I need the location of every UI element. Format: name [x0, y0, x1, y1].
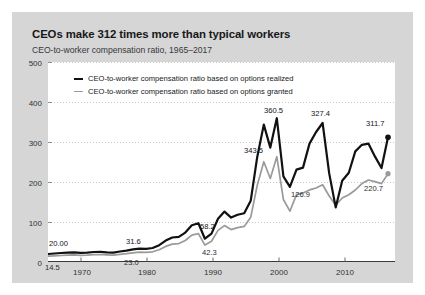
legend-label-granted: CEO-to-worker compensation ratio based o… — [88, 87, 293, 96]
y-tick-200: 200 — [16, 179, 42, 188]
legend-label-realized: CEO-to-worker compensation ratio based o… — [88, 74, 294, 83]
y-tick-400: 400 — [16, 99, 42, 108]
page-title: CEOs make 312 times more than typical wo… — [32, 28, 290, 40]
y-tick-500: 500 — [16, 59, 42, 68]
x-tick-2010: 2010 — [328, 268, 362, 277]
y-tick-0: 0 — [16, 259, 42, 268]
y-axis-ticks — [48, 63, 52, 223]
y-tick-100: 100 — [16, 219, 42, 228]
chart-subtitle: CEO-to-worker compensation ratio, 1965–2… — [32, 45, 212, 55]
label-2017-granted: 220.7 — [364, 184, 383, 193]
legend-item-granted: CEO-to-worker compensation ratio based o… — [74, 87, 293, 96]
label-1978-realized: 31.6 — [126, 237, 141, 246]
label-2002-granted: 126.9 — [291, 190, 310, 199]
label-2000-peak: 360.5 — [264, 106, 283, 115]
label-1998-realized: 343.5 — [244, 146, 263, 155]
y-tick-300: 300 — [16, 139, 42, 148]
series-line-realized — [48, 118, 388, 254]
legend-swatch-realized — [74, 78, 83, 80]
label-1989-realized: 58.2 — [200, 222, 215, 231]
endpoint-granted — [385, 171, 390, 176]
x-tick-1980: 1980 — [130, 268, 164, 277]
plot-panel: CEO-to-worker compensation ratio based o… — [48, 62, 395, 262]
x-tick-1990: 1990 — [196, 268, 230, 277]
endpoint-realized — [385, 135, 391, 141]
label-1989-granted: 42.3 — [202, 248, 217, 257]
label-1978-granted: 23.0 — [124, 258, 139, 267]
x-tick-2000: 2000 — [262, 268, 296, 277]
legend-item-realized: CEO-to-worker compensation ratio based o… — [74, 74, 294, 83]
label-1965-realized: 20.00 — [49, 239, 68, 248]
chart-card: CEOs make 312 times more than typical wo… — [12, 12, 413, 283]
label-2017-realized: 311.7 — [366, 119, 384, 128]
label-1965-granted: 14.5 — [45, 263, 60, 272]
label-2007-realized: 327.4 — [311, 109, 330, 118]
x-axis-ticks — [81, 258, 345, 262]
legend-swatch-granted — [74, 91, 83, 92]
x-tick-1970: 1970 — [65, 268, 99, 277]
